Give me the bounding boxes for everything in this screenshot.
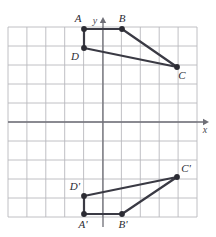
vertex-dot-a-prime bbox=[81, 211, 87, 217]
vertex-label-d-prime: D' bbox=[69, 180, 81, 192]
vertex-dot-b-prime bbox=[119, 211, 125, 217]
vertex-label-b-prime: B' bbox=[118, 218, 128, 230]
y-axis-arrowhead-icon bbox=[100, 17, 106, 23]
quadrilateral-A-prime-B-prime-C-prime-D-prime bbox=[84, 177, 177, 214]
vertex-dot-d-prime bbox=[81, 193, 87, 199]
geometry-canvas: x y ABCDA'B'C'D' bbox=[0, 0, 216, 237]
y-axis-label: y bbox=[92, 15, 98, 26]
vertex-dot-c-prime bbox=[174, 174, 180, 180]
vertex-label-b: B bbox=[119, 12, 126, 24]
vertex-label-a-prime: A' bbox=[77, 218, 88, 230]
vertex-label-a: A bbox=[74, 12, 82, 24]
vertex-label-c-prime: C' bbox=[181, 162, 191, 174]
axes: x y bbox=[8, 15, 209, 227]
vertex-label-d: D bbox=[70, 50, 79, 62]
quadrilateral-ABCD bbox=[84, 29, 177, 67]
vertex-dot-d bbox=[81, 45, 87, 51]
vertex-labels: ABCDA'B'C'D' bbox=[69, 12, 192, 230]
coordinate-grid-figure: x y ABCDA'B'C'D' bbox=[0, 0, 216, 237]
vertex-dot-a bbox=[81, 26, 87, 32]
vertex-label-c: C bbox=[178, 69, 186, 81]
vertex-dot-b bbox=[119, 26, 125, 32]
x-axis-label: x bbox=[202, 124, 208, 135]
